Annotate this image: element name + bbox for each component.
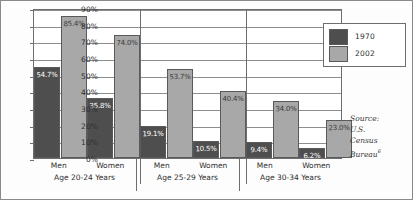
bar-value-label: 23.0%: [328, 123, 349, 131]
legend-item-1970: 1970: [329, 28, 400, 45]
source-line-4: Bureau6: [350, 146, 410, 160]
chart-figure: 54.7%85.4%35.8%74.0%19.1%53.7%10.5%40.4%…: [0, 0, 413, 200]
bar-value-label: 6.2%: [303, 152, 320, 160]
bar-1970-men-4: 9.4%: [246, 142, 272, 158]
x-axis-group-label: Age 25-29 Years: [136, 173, 239, 182]
x-axis-category-label: Men: [239, 161, 291, 170]
source-line-1: Source:: [350, 113, 410, 124]
y-axis-tick-label: 40%: [81, 88, 98, 97]
bar-value-label: 19.1%: [142, 130, 163, 138]
x-axis-category-label: Women: [291, 161, 343, 170]
x-axis-category-label: Women: [188, 161, 240, 170]
y-axis-tick-label: 60%: [81, 55, 98, 64]
bar-value-label: 53.7%: [169, 72, 190, 80]
x-axis-category-label: Men: [136, 161, 188, 170]
bar-value-label: 10.5%: [195, 144, 216, 152]
x-axis-group-divider: [239, 159, 240, 191]
source-note: Source: U.S. Census Bureau6: [350, 113, 410, 160]
legend-item-2002: 2002: [329, 45, 400, 62]
bar-1970-women-5: 6.2%: [299, 148, 325, 158]
y-axis-tick-label: 50%: [81, 71, 98, 80]
y-axis-tick-label: 90%: [81, 5, 98, 14]
plot-area: 54.7%85.4%35.8%74.0%19.1%53.7%10.5%40.4%…: [33, 9, 342, 159]
chart-legend: 1970 2002: [323, 23, 406, 67]
source-line-3: Census: [350, 135, 410, 146]
y-axis-tick-label: 30%: [81, 105, 98, 114]
x-axis-category-label: Men: [33, 161, 85, 170]
bar-group: 19.1%53.7%: [140, 10, 193, 158]
bar-value-label: 34.0%: [275, 105, 296, 113]
bar-group: 9.4%34.0%: [246, 10, 299, 158]
legend-swatch-2002: [329, 46, 348, 62]
bar-value-label: 9.4%: [250, 146, 267, 154]
x-axis-category-label: Women: [85, 161, 137, 170]
bar-value-label: 40.4%: [222, 94, 243, 102]
x-axis-group-label: Age 20-24 Years: [33, 173, 136, 182]
x-axis: MenWomenMenWomenMenWomenAge 20-24 YearsA…: [33, 161, 342, 195]
y-axis-tick-label: 10%: [81, 138, 98, 147]
bar-2002-women-5: 23.0%: [326, 120, 352, 158]
bar-group: 10.5%40.4%: [193, 10, 246, 158]
bar-1970-women-3: 10.5%: [193, 141, 219, 159]
bar-group: 54.7%85.4%: [34, 10, 87, 158]
bar-groups: 54.7%85.4%35.8%74.0%19.1%53.7%10.5%40.4%…: [34, 10, 341, 158]
x-axis-group-divider: [136, 159, 137, 191]
y-axis-tick-label: 20%: [81, 121, 98, 130]
source-footnote-marker: 6: [378, 148, 381, 154]
legend-label-2002: 2002: [355, 49, 375, 58]
bar-group: 35.8%74.0%: [87, 10, 140, 158]
y-axis-tick-label: 70%: [81, 38, 98, 47]
y-axis-tick-label: 80%: [81, 21, 98, 30]
bar-2002-women-3: 40.4%: [220, 91, 246, 158]
legend-swatch-1970: [329, 29, 348, 45]
bar-1970-men-0: 54.7%: [34, 67, 60, 158]
bar-value-label: 74.0%: [116, 38, 137, 46]
source-line-2: U.S.: [350, 124, 410, 135]
source-line-4-text: Bureau: [350, 150, 378, 159]
legend-label-1970: 1970: [355, 32, 375, 41]
bar-value-label: 54.7%: [36, 71, 57, 79]
bar-1970-men-2: 19.1%: [140, 126, 166, 158]
bar-2002-women-1: 74.0%: [114, 35, 140, 158]
x-axis-group-label: Age 30-34 Years: [239, 173, 342, 182]
bar-2002-men-4: 34.0%: [273, 101, 299, 158]
bar-2002-men-2: 53.7%: [167, 69, 193, 159]
